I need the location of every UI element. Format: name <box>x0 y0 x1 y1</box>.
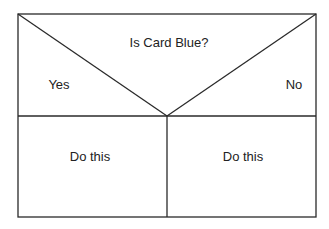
decision-diagram: Is Card Blue? Yes No Do this Do this <box>0 0 329 229</box>
question-label: Is Card Blue? <box>130 36 209 49</box>
action-no-label: Do this <box>223 150 263 163</box>
diagonal-right <box>167 14 316 116</box>
diagonal-left <box>18 14 167 116</box>
branch-no-label: No <box>286 78 303 91</box>
branch-yes-label: Yes <box>48 78 69 91</box>
action-yes-label: Do this <box>70 150 110 163</box>
